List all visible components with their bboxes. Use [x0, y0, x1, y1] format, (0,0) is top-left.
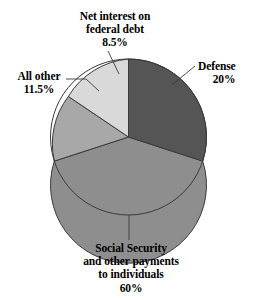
- pie-label-net-interest-value: 8.5%: [55, 36, 175, 49]
- pie-label-all-other-value: 11.5%: [2, 83, 76, 96]
- pie-label-social-security-value: 60%: [52, 282, 210, 295]
- pie-label-social-security: Social Security and other payments to in…: [52, 242, 210, 295]
- pie-label-net-interest: Net interest on federal debt 8.5%: [55, 10, 175, 50]
- pie-chart-figure: Net interest on federal debt 8.5% Defens…: [0, 0, 262, 300]
- pie-label-all-other-line1: All other: [2, 70, 76, 83]
- pie-label-defense-line1: Defense: [198, 60, 260, 73]
- pie-label-all-other: All other 11.5%: [2, 70, 76, 96]
- pie-label-social-security-line1: Social Security: [52, 242, 210, 255]
- pie-label-defense-value: 20%: [198, 73, 250, 86]
- pie-label-social-security-line3: to individuals: [52, 268, 210, 281]
- pie-label-defense: Defense 20%: [198, 60, 260, 86]
- pie-label-social-security-line2: and other payments: [52, 255, 210, 268]
- pie-label-net-interest-line2: federal debt: [55, 23, 175, 36]
- pie-label-net-interest-line1: Net interest on: [55, 10, 175, 23]
